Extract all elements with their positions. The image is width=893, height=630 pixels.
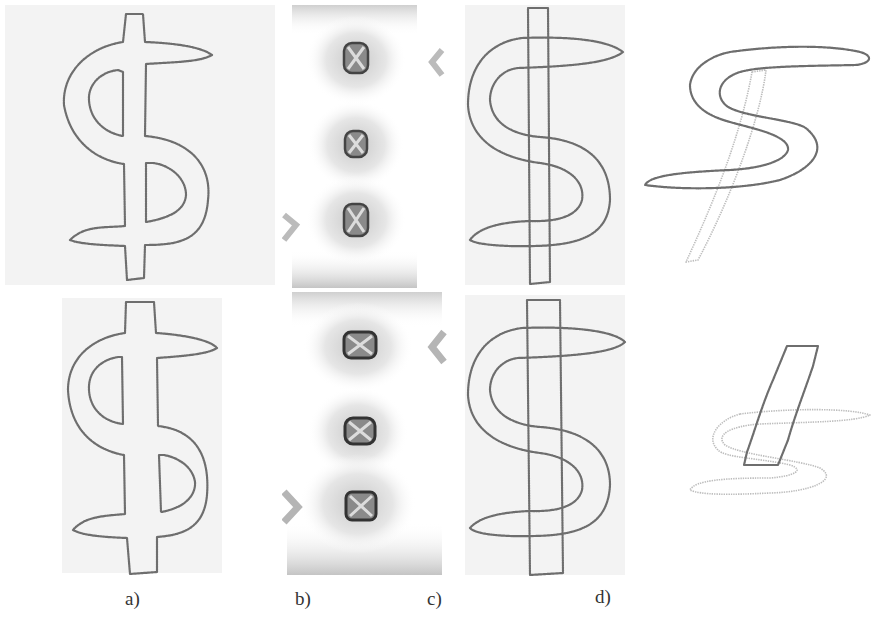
panel-label-a: a)	[125, 588, 140, 610]
square-feature	[344, 43, 368, 73]
s-and-bar-overlap-top	[460, 0, 630, 290]
panel-a-top	[0, 0, 280, 290]
panel-b-bottom	[282, 292, 454, 575]
panel-d-top	[630, 0, 893, 290]
panel-a-bottom	[0, 290, 280, 580]
separated-components-bottom	[630, 290, 893, 580]
panel-label-b: b)	[295, 588, 311, 610]
square-feature	[346, 492, 376, 520]
s-and-bar-overlap-bottom	[460, 290, 630, 580]
square-feature	[344, 204, 368, 236]
panel-label-c: c)	[427, 588, 442, 610]
dollar-sign-outline-bottom	[0, 290, 280, 580]
square-feature	[344, 332, 376, 358]
dollar-sign-outline-top	[0, 0, 280, 290]
panel-c-bottom	[460, 290, 630, 580]
deformation-field-bottom	[282, 292, 454, 575]
deformation-field-top	[282, 5, 454, 288]
panel-c-top	[460, 0, 630, 290]
square-feature	[345, 418, 375, 444]
square-feature	[345, 131, 367, 157]
panel-label-d: d)	[595, 586, 611, 608]
panel-d-bottom	[630, 290, 893, 580]
separated-components-top	[630, 0, 893, 290]
panel-b-top	[282, 5, 454, 288]
